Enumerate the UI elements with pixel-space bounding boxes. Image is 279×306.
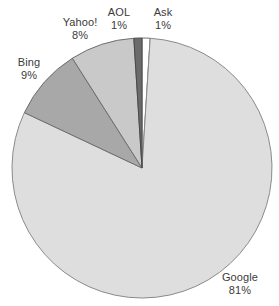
slice-label-ask: Ask 1% xyxy=(142,6,184,31)
slice-label-ask-name: Ask xyxy=(142,6,184,19)
slice-label-ask-value: 1% xyxy=(142,19,184,32)
slice-label-google-name: Google xyxy=(211,271,269,284)
slice-label-bing: Bing 9% xyxy=(3,56,55,81)
slice-label-google: Google 81% xyxy=(211,271,269,296)
slice-label-google-value: 81% xyxy=(211,284,269,297)
slice-label-bing-name: Bing xyxy=(3,56,55,69)
pie-chart-canvas xyxy=(0,0,279,306)
pie-chart: AOL 1% Ask 1% Yahoo! 8% Bing 9% Google 8… xyxy=(0,0,279,306)
slice-label-yahoo-value: 8% xyxy=(49,29,111,42)
slice-label-bing-value: 9% xyxy=(3,69,55,82)
slice-label-yahoo: Yahoo! 8% xyxy=(49,16,111,41)
slice-label-yahoo-name: Yahoo! xyxy=(49,16,111,29)
